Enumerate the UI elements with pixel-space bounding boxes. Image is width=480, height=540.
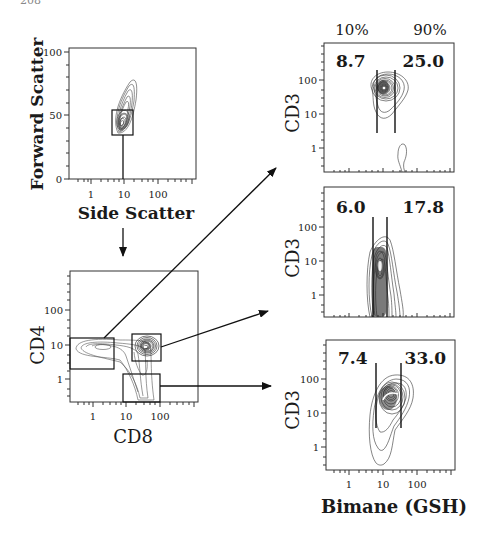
y-tick-50: 50 [49, 110, 62, 121]
y-tick-10: 10 [304, 256, 317, 267]
header-90-percent: 90% [413, 21, 446, 39]
x-tick-100: 100 [407, 479, 426, 490]
y-axis-label: CD3 [282, 93, 303, 133]
y-tick-100: 100 [298, 75, 317, 86]
panel-cd3-bimane-2: 100 10 1 CD3 6.0 17.8 [282, 187, 454, 317]
value-90-percent: 33.0 [405, 348, 447, 368]
y-tick-10: 10 [304, 109, 317, 120]
gate-cd4-single-positive [70, 338, 114, 369]
panel-cd3-bimane-1: 100 10 1 CD3 8.7 25.0 [282, 43, 454, 172]
x-tick-10: 10 [377, 479, 390, 490]
flow-cytometry-figure: 208 [0, 0, 480, 540]
x-tick-1: 1 [88, 189, 94, 200]
x-tick-1: 1 [90, 411, 96, 422]
y-tick-1: 1 [311, 143, 317, 154]
y-axis-label: CD3 [282, 238, 303, 278]
value-90-percent: 17.8 [403, 197, 444, 217]
x-axis-label: Bimane (GSH) [321, 496, 467, 517]
x-tick-10: 10 [120, 411, 133, 422]
page-number: 208 [20, 0, 41, 7]
x-tick-1: 1 [346, 479, 352, 490]
value-90-percent: 25.0 [403, 51, 445, 71]
x-axis-label: Side Scatter [78, 203, 196, 223]
x-tick-100: 100 [148, 189, 167, 200]
y-tick-10: 10 [50, 340, 63, 351]
y-tick-1: 1 [313, 442, 319, 453]
figure-canvas: 100 50 0 1 10 100 Side Scatter Forward S… [0, 0, 480, 540]
x-tick-100: 100 [150, 411, 169, 422]
panel-cd4-cd8: 100 10 1 1 10 100 CD8 CD4 [27, 271, 198, 447]
panel-scatter: 100 50 0 1 10 100 Side Scatter Forward S… [27, 36, 196, 223]
y-axis-label: Forward Scatter [27, 36, 47, 190]
y-axis-label: CD3 [282, 390, 303, 430]
value-10-percent: 6.0 [336, 197, 366, 217]
arrow-to-plot-2 [161, 311, 268, 347]
y-tick-100: 100 [300, 374, 319, 385]
value-10-percent: 7.4 [338, 348, 368, 368]
contour-double-positive [135, 336, 159, 356]
x-axis-label: CD8 [113, 426, 153, 447]
panel-cd3-bimane-3: 100 10 1 1 10 100 Bimane (GSH) CD3 7.4 3… [282, 340, 467, 517]
y-tick-10: 10 [306, 408, 319, 419]
header-10-percent: 10% [335, 21, 368, 39]
value-10-percent: 8.7 [336, 51, 366, 71]
y-tick-100: 100 [298, 222, 317, 233]
y-tick-100: 100 [44, 305, 63, 316]
y-tick-0: 0 [56, 174, 62, 185]
x-tick-10: 10 [118, 189, 131, 200]
y-tick-1: 1 [57, 374, 63, 385]
y-axis-label: CD4 [27, 325, 48, 365]
y-tick-1: 1 [311, 290, 317, 301]
